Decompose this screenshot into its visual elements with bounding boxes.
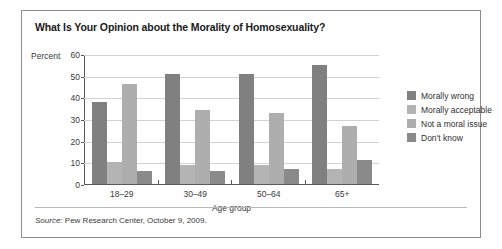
bar xyxy=(137,171,152,184)
legend-swatch-icon xyxy=(407,119,416,128)
bar-groups: 18–2930–4950–6465+ xyxy=(85,55,379,184)
x-axis-tick-label: 50–64 xyxy=(257,189,281,199)
figure-border: What Is Your Opinion about the Morality … xyxy=(21,10,481,238)
y-axis-tick-mark xyxy=(81,185,84,186)
legend-swatch-icon xyxy=(407,105,416,114)
bar xyxy=(269,113,284,185)
legend-label: Not a moral issue xyxy=(421,119,487,129)
bar xyxy=(195,110,210,184)
y-axis-tick-label: 20 xyxy=(71,137,80,147)
bar xyxy=(327,169,342,184)
legend-item: Morally wrong xyxy=(407,89,492,102)
legend-item: Don't know xyxy=(407,131,492,144)
bar xyxy=(92,102,107,184)
legend-swatch-icon xyxy=(407,133,416,142)
source-divider xyxy=(35,207,467,208)
bar xyxy=(357,160,372,184)
bar xyxy=(107,162,122,184)
y-axis-tick-label: 40 xyxy=(71,93,80,103)
y-axis-tick-mark xyxy=(81,98,84,99)
plot-area: 6050403020100 18–2930–4950–6465+ xyxy=(84,55,379,185)
bar xyxy=(180,165,195,185)
legend-swatch-icon xyxy=(407,91,416,100)
x-axis-tick-label: 65+ xyxy=(335,189,349,199)
bar-group: 50–64 xyxy=(232,55,306,184)
chart-title: What Is Your Opinion about the Morality … xyxy=(35,21,325,33)
bar xyxy=(210,171,225,184)
y-axis-tick-label: 0 xyxy=(75,180,80,190)
source-prefix: Source: xyxy=(35,216,63,225)
bar xyxy=(284,169,299,184)
bar xyxy=(254,165,269,185)
bar xyxy=(122,84,137,184)
y-axis-tick-label: 10 xyxy=(71,158,80,168)
y-axis-tick-mark xyxy=(81,163,84,164)
y-axis-title: Percent xyxy=(31,51,60,61)
x-axis-tick-label: 18–29 xyxy=(110,189,134,199)
y-axis-tick-mark xyxy=(81,120,84,121)
legend-item: Not a moral issue xyxy=(407,117,492,130)
bar xyxy=(239,74,254,185)
legend-label: Don't know xyxy=(421,133,463,143)
source-text: Pew Research Center, October 9, 2009. xyxy=(65,216,207,225)
legend: Morally wrongMorally acceptableNot a mor… xyxy=(407,89,492,145)
bar-group: 30–49 xyxy=(159,55,233,184)
y-axis-tick-mark xyxy=(81,77,84,78)
source-note: Source: Pew Research Center, October 9, … xyxy=(35,216,207,225)
y-axis-tick-label: 30 xyxy=(71,115,80,125)
bar xyxy=(342,126,357,185)
y-axis-tick-label: 60 xyxy=(71,50,80,60)
chart-figure: What Is Your Opinion about the Morality … xyxy=(0,0,502,249)
y-axis-tick-mark xyxy=(81,55,84,56)
x-axis-title: Age group xyxy=(84,203,379,213)
legend-label: Morally acceptable xyxy=(421,105,492,115)
bar xyxy=(312,65,327,184)
bar-group: 65+ xyxy=(306,55,380,184)
bar xyxy=(165,74,180,185)
legend-label: Morally wrong xyxy=(421,91,474,101)
legend-item: Morally acceptable xyxy=(407,103,492,116)
y-axis-tick-label: 50 xyxy=(71,72,80,82)
bar-group: 18–29 xyxy=(85,55,159,184)
y-axis-tick-mark xyxy=(81,142,84,143)
x-axis-tick-label: 30–49 xyxy=(183,189,207,199)
